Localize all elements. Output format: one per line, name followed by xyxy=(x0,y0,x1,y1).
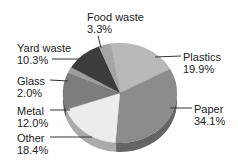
slice-label-name: Paper xyxy=(194,103,225,115)
slice-label-percent: 2.0% xyxy=(17,87,45,99)
slice-label-percent: 12.0% xyxy=(17,117,48,129)
slice-label-name: Other xyxy=(17,132,48,144)
pie-chart: Food waste3.3%Plastics19.9%Paper34.1%Yar… xyxy=(0,0,238,162)
slice-label-paper: Paper34.1% xyxy=(194,103,225,127)
slice-label-yard-waste: Yard waste10.3% xyxy=(17,42,71,66)
slice-label-percent: 19.9% xyxy=(183,63,221,75)
slice-label-name: Yard waste xyxy=(17,42,71,54)
slice-label-percent: 18.4% xyxy=(17,144,48,156)
slice-label-percent: 10.3% xyxy=(17,54,71,66)
slice-label-name: Food waste xyxy=(87,11,144,23)
slice-label-name: Metal xyxy=(17,105,48,117)
slice-label-glass: Glass2.0% xyxy=(17,75,45,99)
slice-label-other: Other18.4% xyxy=(17,132,48,156)
slice-label-name: Plastics xyxy=(183,51,221,63)
slice-label-percent: 3.3% xyxy=(87,23,144,35)
slice-label-plastics: Plastics19.9% xyxy=(183,51,221,75)
slice-label-percent: 34.1% xyxy=(194,115,225,127)
slice-label-name: Glass xyxy=(17,75,45,87)
slice-label-food-waste: Food waste3.3% xyxy=(87,11,144,35)
slice-label-metal: Metal12.0% xyxy=(17,105,48,129)
